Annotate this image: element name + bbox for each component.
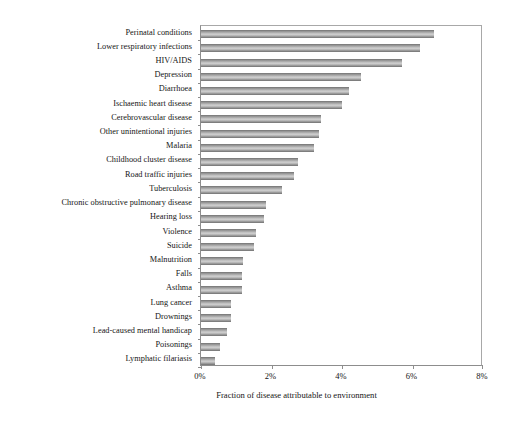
y-axis-tick bbox=[198, 140, 201, 141]
bar bbox=[201, 115, 321, 123]
x-axis-tick bbox=[342, 365, 343, 369]
y-axis-tick bbox=[198, 40, 201, 41]
x-axis-title: Fraction of disease attributable to envi… bbox=[0, 390, 513, 400]
bar bbox=[201, 87, 349, 95]
y-axis-tick bbox=[198, 339, 201, 340]
x-axis-title-text: Fraction of disease attributable to envi… bbox=[216, 390, 377, 400]
x-axis-tick-label: 0% bbox=[180, 371, 220, 381]
y-axis-tick bbox=[198, 154, 201, 155]
x-axis-tick bbox=[482, 365, 483, 369]
bar bbox=[201, 257, 243, 265]
y-axis-category-labels: Perinatal conditionsLower respiratory in… bbox=[0, 25, 196, 366]
y-axis-label: Hearing loss bbox=[0, 212, 192, 221]
y-axis-tick bbox=[198, 211, 201, 212]
y-axis-label: Other unintentional injuries bbox=[0, 127, 192, 136]
x-axis-tick-label: 8% bbox=[462, 371, 502, 381]
y-axis-label: Chronic obstructive pulmonary disease bbox=[0, 198, 192, 207]
y-axis-label: Poisonings bbox=[0, 340, 192, 349]
y-axis-tick bbox=[198, 353, 201, 354]
bar bbox=[201, 357, 215, 365]
bar bbox=[201, 300, 231, 308]
y-axis-label: Diarrhoea bbox=[0, 84, 192, 93]
y-axis-tick bbox=[198, 182, 201, 183]
y-axis-label: Drownings bbox=[0, 312, 192, 321]
x-axis-tick bbox=[201, 365, 202, 369]
bar bbox=[201, 343, 220, 351]
bar-series bbox=[201, 26, 481, 365]
bar bbox=[201, 229, 256, 237]
y-axis-label: Lead-caused mental handicap bbox=[0, 326, 192, 335]
y-axis-label: HIV/AIDS bbox=[0, 56, 192, 65]
y-axis-tick bbox=[198, 83, 201, 84]
bar bbox=[201, 144, 314, 152]
bar bbox=[201, 314, 231, 322]
y-axis-tick bbox=[198, 268, 201, 269]
y-axis-tick bbox=[198, 282, 201, 283]
y-axis-label: Suicide bbox=[0, 241, 192, 250]
bar bbox=[201, 186, 282, 194]
y-axis-label: Asthma bbox=[0, 283, 192, 292]
y-axis-label: Depression bbox=[0, 70, 192, 79]
y-axis-tick bbox=[198, 253, 201, 254]
chart-figure: Perinatal conditionsLower respiratory in… bbox=[0, 0, 513, 421]
y-axis-tick bbox=[198, 97, 201, 98]
bar bbox=[201, 201, 266, 209]
y-axis-label: Lower respiratory infections bbox=[0, 42, 192, 51]
x-axis-tick-label: 2% bbox=[251, 371, 291, 381]
bar bbox=[201, 158, 298, 166]
y-axis-label: Tuberculosis bbox=[0, 184, 192, 193]
x-axis-tick bbox=[413, 365, 414, 369]
bar bbox=[201, 272, 242, 280]
bar bbox=[201, 130, 319, 138]
plot-area bbox=[200, 25, 482, 366]
x-axis-tick bbox=[272, 365, 273, 369]
x-axis-tick-label: 6% bbox=[392, 371, 432, 381]
y-axis-label: Perinatal conditions bbox=[0, 28, 192, 37]
bar bbox=[201, 328, 227, 336]
y-axis-tick bbox=[198, 197, 201, 198]
y-axis-tick bbox=[198, 225, 201, 226]
bar bbox=[201, 215, 264, 223]
bar bbox=[201, 172, 294, 180]
y-axis-label: Lymphatic filariasis bbox=[0, 354, 192, 363]
y-axis-label: Lung cancer bbox=[0, 298, 192, 307]
y-axis-tick bbox=[198, 54, 201, 55]
y-axis-tick bbox=[198, 310, 201, 311]
x-axis-tick-label: 4% bbox=[321, 371, 361, 381]
y-axis-label: Road traffic injuries bbox=[0, 170, 192, 179]
y-axis-label: Malnutrition bbox=[0, 255, 192, 264]
y-axis-tick bbox=[198, 324, 201, 325]
y-axis-label: Malaria bbox=[0, 141, 192, 150]
bar bbox=[201, 44, 420, 52]
bar bbox=[201, 59, 402, 67]
bar bbox=[201, 243, 254, 251]
y-axis-tick bbox=[198, 111, 201, 112]
bar bbox=[201, 101, 342, 109]
y-axis-tick bbox=[198, 125, 201, 126]
y-axis-tick bbox=[198, 69, 201, 70]
y-axis-label: Childhood cluster disease bbox=[0, 155, 192, 164]
bar bbox=[201, 73, 361, 81]
y-axis-label: Ischaemic heart disease bbox=[0, 99, 192, 108]
y-axis-label: Falls bbox=[0, 269, 192, 278]
y-axis-label: Cerebrovascular disease bbox=[0, 113, 192, 122]
y-axis-tick bbox=[198, 239, 201, 240]
bar bbox=[201, 286, 242, 294]
y-axis-tick bbox=[198, 168, 201, 169]
y-axis-tick bbox=[198, 296, 201, 297]
bar bbox=[201, 30, 434, 38]
y-axis-label: Violence bbox=[0, 227, 192, 236]
